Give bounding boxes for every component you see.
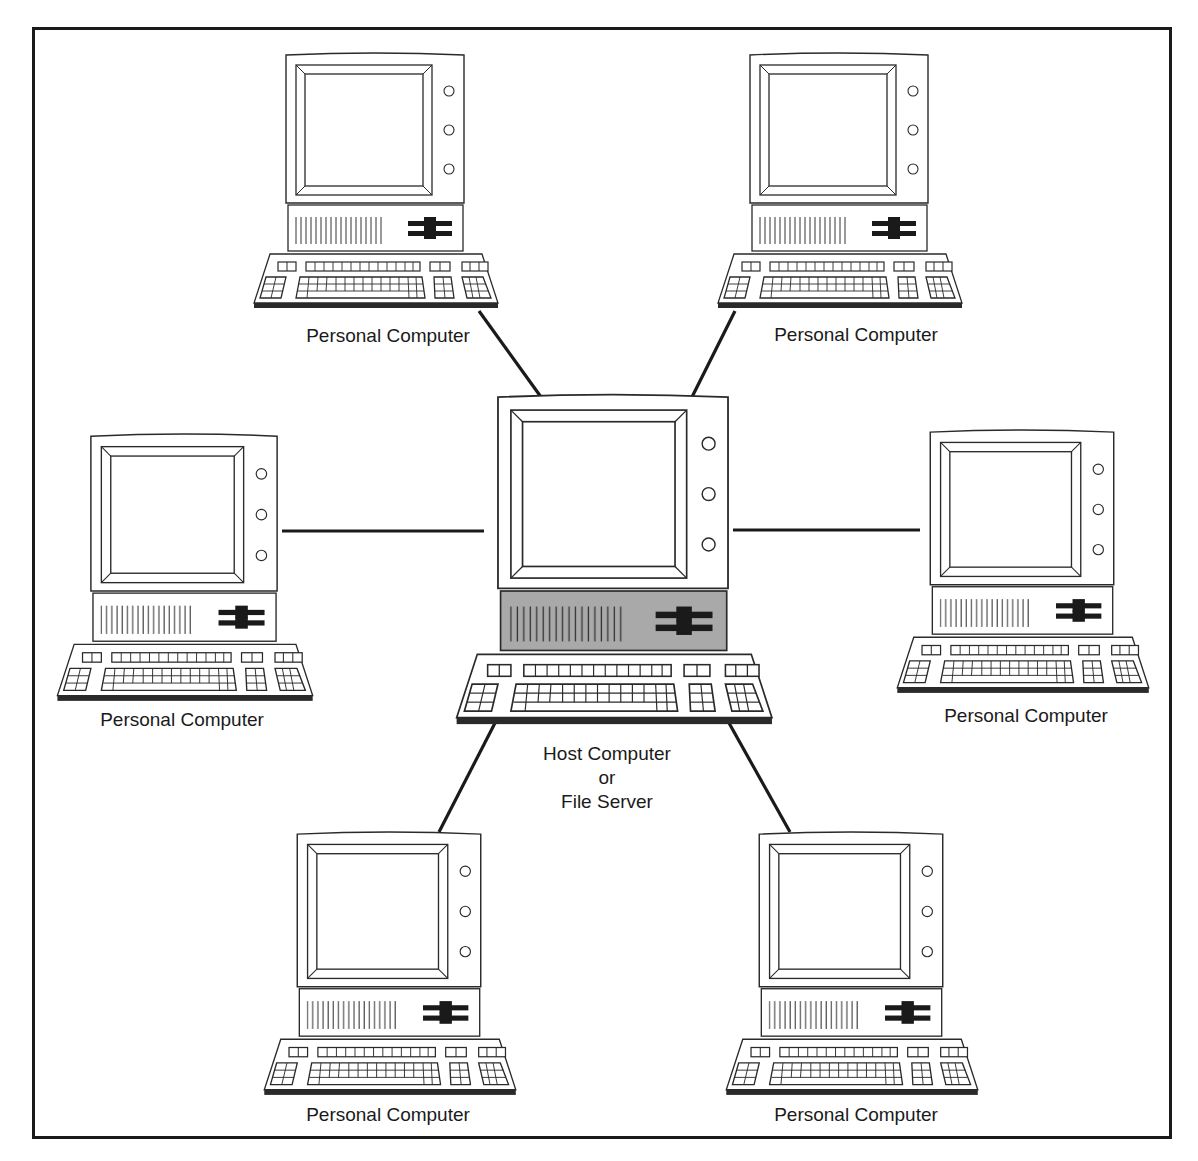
host-label-line2: or <box>599 766 616 790</box>
link-top-right <box>692 311 735 397</box>
link-top-left <box>479 311 541 397</box>
host-label-line3: File Server <box>561 790 653 814</box>
pc-top-left-label: Personal Computer <box>306 324 470 348</box>
pc-bottom-right-icon <box>726 832 978 1095</box>
host-computer-icon <box>457 395 772 725</box>
pc-top-left-icon <box>254 53 498 308</box>
pc-bottom-left-label: Personal Computer <box>306 1103 470 1127</box>
pc-bottom-right-label: Personal Computer <box>774 1103 938 1127</box>
network-diagram <box>0 0 1198 1161</box>
pc-left-label: Personal Computer <box>100 708 264 732</box>
pc-top-right-icon <box>718 53 962 308</box>
pc-left-icon <box>57 434 312 701</box>
pc-right-icon <box>897 430 1149 693</box>
pc-top-right-label: Personal Computer <box>774 323 938 347</box>
pc-bottom-left-icon <box>264 832 516 1095</box>
link-bottom-left <box>439 723 495 832</box>
pc-right-label: Personal Computer <box>944 704 1108 728</box>
link-bottom-right <box>729 723 790 832</box>
host-label-line1: Host Computer <box>543 742 671 766</box>
